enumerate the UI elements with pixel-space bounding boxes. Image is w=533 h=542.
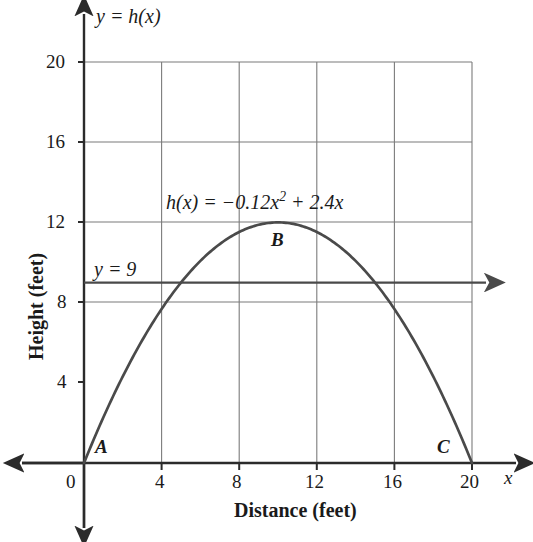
x-tick-label-20: 20 [460,472,479,491]
equation-label: h(x) = −0.12x2 + 2.4x [166,190,343,212]
parabola-curve [84,222,472,463]
graph-canvas [0,0,533,542]
x-tick-label-12: 12 [305,472,324,491]
x-tick-label-16: 16 [383,472,402,491]
equation-text: h(x) = −0.12x2 + 2.4x [166,191,343,213]
y-tick-label-12: 12 [46,212,65,231]
point-label-a: A [95,437,108,456]
point-label-b: B [271,230,284,249]
vertical-gridlines [162,62,472,463]
graph-figure: y = h(x) h(x) = −0.12x2 + 2.4x y = 9 A B… [0,0,533,542]
x-axis-title: Distance (feet) [234,500,357,520]
y-equals-9-label: y = 9 [94,259,136,279]
y-equals-h-of-x-label: y = h(x) [96,6,161,26]
y-tick-label-16: 16 [46,132,65,151]
y-tick-label-8: 8 [57,292,67,311]
x-tick-label-8: 8 [232,472,242,491]
y-tick-label-4: 4 [57,372,67,391]
horizontal-gridlines [84,62,472,302]
x-tick-label-0: 0 [66,472,76,491]
x-tick-label-4: 4 [155,472,165,491]
y-axis-title: Height (feet) [26,253,46,360]
y-tick-label-20: 20 [46,52,65,71]
x-axis-variable-label: x [504,468,512,487]
point-label-c: C [437,437,450,456]
